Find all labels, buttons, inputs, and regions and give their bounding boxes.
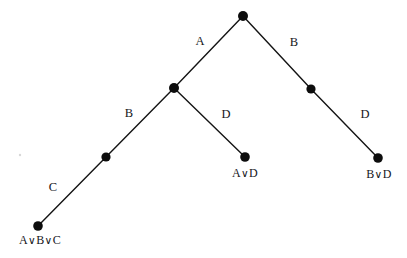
edge-label-root-right: B [290, 36, 298, 49]
edge-label-root-left: A [195, 35, 204, 48]
leaf-node-a-b-c [33, 221, 43, 231]
edge-root-to-mid-right [243, 16, 311, 89]
lower-left-node [101, 152, 110, 161]
leaf-node-b-d [373, 153, 383, 163]
scan-speck [19, 154, 21, 156]
mid-left-node [169, 83, 179, 93]
resolution-tree-diagram: A B B D C D A∨B∨C A∨D B∨D [0, 0, 407, 258]
leaf-label-b-d: B∨D [366, 168, 392, 180]
edge-mid-left-to-lower-left [106, 88, 174, 157]
leaf-node-a-d [240, 152, 250, 162]
edge-root-to-mid-left [174, 16, 243, 88]
edge-group [38, 16, 378, 226]
edge-mid-right-to-leaf-right [311, 89, 378, 158]
edge-mid-left-to-leaf-center [174, 88, 245, 157]
leaf-label-a-d: A∨D [232, 167, 258, 179]
root-node [238, 11, 248, 21]
edge-label-lower-left: C [49, 181, 57, 194]
edge-label-mid-right: D [221, 108, 230, 121]
leaf-label-a-b-c: A∨B∨C [19, 234, 61, 246]
edge-label-right-lower: D [360, 108, 369, 121]
mid-right-node [306, 84, 315, 93]
edge-label-mid-left: B [125, 107, 133, 120]
